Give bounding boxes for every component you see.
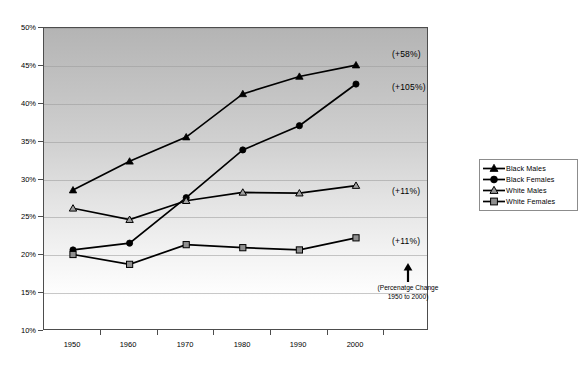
- x-tick-mark: [157, 330, 158, 335]
- filled-triangle-marker-icon: [482, 163, 506, 174]
- legend-label: Black Males: [506, 164, 546, 173]
- x-tick-mark: [213, 330, 214, 335]
- annotation-white-males: (+11%): [392, 186, 420, 196]
- x-tick-label: 1980: [222, 340, 262, 349]
- up-arrow-icon: [400, 262, 416, 282]
- legend-label: White Males: [506, 186, 547, 195]
- x-tick-mark: [100, 330, 101, 335]
- open-triangle-marker-icon: [482, 185, 506, 196]
- legend-item-white-females[interactable]: White Females: [482, 196, 575, 207]
- legend: Black Males Black Females White Males Wh…: [479, 159, 578, 211]
- legend-item-black-females[interactable]: Black Females: [482, 174, 575, 185]
- x-tick-label: 1970: [165, 340, 205, 349]
- annotation-white-females: (+11%): [392, 236, 420, 246]
- annotation-black-males: (+58%): [392, 49, 421, 59]
- line-chart: 50% 45% 40% 35% 30% 25% 20% 15% 10% 1950…: [0, 0, 582, 388]
- x-tick-mark: [383, 330, 384, 335]
- x-tick-label: 1950: [52, 340, 92, 349]
- x-tick-label: 1960: [108, 340, 148, 349]
- footnote-block: (Percenatge Change 1950 to 2000): [378, 284, 439, 302]
- annotation-black-females: (+105%): [392, 82, 426, 92]
- x-tick-mark: [270, 330, 271, 335]
- x-tick-label: 2000: [335, 340, 375, 349]
- x-tick-mark: [327, 330, 328, 335]
- legend-item-white-males[interactable]: White Males: [482, 185, 575, 196]
- legend-item-black-males[interactable]: Black Males: [482, 163, 575, 174]
- footnote-line-1: (Percenatge Change: [378, 284, 439, 293]
- legend-label: White Females: [506, 197, 555, 206]
- legend-label: Black Females: [506, 175, 554, 184]
- filled-circle-marker-icon: [482, 174, 506, 185]
- x-tick-label: 1990: [278, 340, 318, 349]
- open-square-marker-icon: [482, 196, 506, 207]
- footnote-line-2: 1950 to 2000): [378, 293, 439, 302]
